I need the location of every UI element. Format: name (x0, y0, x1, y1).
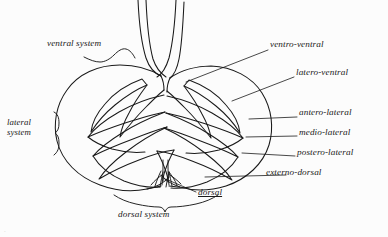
ventral-median-notch (161, 76, 170, 92)
label-lateral-system: lateral system (7, 118, 31, 137)
label-antero-lateral: antero-lateral (299, 108, 352, 118)
label-dorsal-system: dorsal system (118, 210, 170, 220)
label-lateral-system-line1: lateral (7, 117, 31, 127)
label-lateral-system-line2: system (7, 127, 31, 137)
label-postero-lateral: postero-lateral (297, 148, 353, 158)
lateral-system-brace (54, 112, 59, 155)
leader-lines-right (186, 50, 297, 177)
gray-matter-right-lateral-bundles (164, 96, 243, 157)
gray-matter-right-dorsal-horn (157, 128, 238, 188)
label-medio-lateral: medio-lateral (299, 128, 350, 138)
label-dorsal: dorsal (198, 188, 222, 198)
label-externo-dorsal: externo-dorsal (266, 168, 322, 178)
dorsal-median-septum (151, 160, 181, 187)
label-latero-ventral: latero-ventral (296, 68, 348, 78)
figure-container: ventral system lateral system dorsal sys… (0, 0, 388, 237)
median-fissure-stalk (138, 0, 184, 78)
ventral-system-brace (84, 49, 135, 62)
spinal-cord-drawing (0, 0, 388, 237)
label-ventro-ventral: ventro-ventral (270, 40, 324, 50)
label-ventral-system: ventral system (47, 39, 101, 49)
figure-caption-fragment: . (4, 226, 6, 234)
gray-matter-left-lateral-bundles (88, 95, 167, 156)
